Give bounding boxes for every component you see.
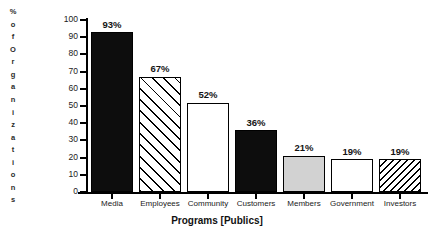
bar-group: 36%: [235, 20, 277, 192]
x-axis-tick: [255, 192, 257, 199]
y-axis-title-char: r: [12, 58, 15, 66]
y-axis-title-char: n: [11, 96, 16, 104]
y-axis-title-char: a: [11, 134, 15, 142]
bar-group: 19%: [379, 20, 421, 192]
y-axis-title-char: a: [11, 83, 15, 91]
y-axis-tick: [80, 191, 88, 193]
bar-customers[interactable]: [235, 130, 277, 192]
y-axis-title-char: f: [12, 33, 15, 41]
x-axis-label-employees: Employees: [140, 200, 180, 208]
y-axis-tick: [80, 19, 88, 21]
y-axis-tick-label: 80: [54, 49, 78, 58]
bar-value-label: 67%: [150, 64, 169, 74]
y-axis-tick: [80, 157, 88, 159]
bar-chart: %ofOrganizations 0102030405060708090100 …: [0, 0, 434, 243]
y-axis-tick-label: 90: [54, 32, 78, 41]
bar-group: 21%: [283, 20, 325, 192]
x-axis-label-customers: Customers: [237, 200, 276, 208]
y-axis-tick-label: 0: [54, 187, 78, 196]
y-axis-tick: [80, 139, 88, 141]
x-axis-tick: [207, 192, 209, 199]
y-axis-tick-label: 10: [54, 170, 78, 179]
y-axis-tick: [80, 88, 88, 90]
bar-community[interactable]: [187, 103, 229, 192]
bar-value-label: 19%: [342, 147, 361, 157]
bar-members[interactable]: [283, 156, 325, 192]
y-axis-tick-label: 70: [54, 67, 78, 76]
x-axis-label-media: Media: [101, 200, 123, 208]
y-axis-title-char: t: [12, 146, 15, 154]
y-axis-title-char: z: [11, 121, 15, 129]
x-axis-tick: [111, 192, 113, 199]
x-axis-tick: [399, 192, 401, 199]
y-axis-title-char: O: [10, 46, 16, 54]
x-axis-label-investors: Investors: [384, 200, 416, 208]
bar-group: 67%: [139, 20, 181, 192]
bar-group: 52%: [187, 20, 229, 192]
bar-government[interactable]: [331, 159, 373, 192]
y-axis-tick: [80, 53, 88, 55]
y-axis-tick-label: 20: [54, 153, 78, 162]
bar-group: 19%: [331, 20, 373, 192]
y-axis-title-char: s: [11, 196, 15, 204]
x-axis-label-government: Government: [330, 200, 374, 208]
y-axis-tick-labels: 0102030405060708090100: [50, 0, 78, 243]
y-axis-tick: [80, 71, 88, 73]
y-axis-tick: [80, 122, 88, 124]
x-axis-tick: [159, 192, 161, 199]
x-axis-tick: [351, 192, 353, 199]
y-axis-title: %ofOrganizations: [2, 8, 24, 204]
y-axis-tick: [80, 36, 88, 38]
y-axis-tick-label: 100: [54, 15, 78, 24]
x-axis-title: Programs [Publics]: [0, 215, 434, 226]
y-axis-tick-label: 40: [54, 118, 78, 127]
y-axis-title-char: n: [11, 184, 16, 192]
bar-value-label: 93%: [102, 20, 121, 30]
y-axis-tick-label: 60: [54, 84, 78, 93]
bar-value-label: 19%: [390, 147, 409, 157]
y-axis-tick: [80, 174, 88, 176]
x-axis-line: [78, 192, 428, 194]
x-axis-label-members: Members: [287, 200, 320, 208]
y-axis-title-char: i: [12, 159, 14, 167]
y-axis-tick-label: 50: [54, 101, 78, 110]
bar-group: 93%: [91, 20, 133, 192]
y-axis-tick-label: 30: [54, 135, 78, 144]
y-axis-title-char: o: [11, 171, 16, 179]
x-axis-label-community: Community: [188, 200, 228, 208]
x-axis-tick: [303, 192, 305, 199]
bar-value-label: 52%: [198, 90, 217, 100]
bar-media[interactable]: [91, 32, 133, 192]
y-axis-title-char: i: [12, 109, 14, 117]
y-axis-tick: [80, 105, 88, 107]
y-axis-title-char: o: [11, 21, 16, 29]
y-axis-title-char: g: [11, 71, 16, 79]
bar-value-label: 21%: [294, 143, 313, 153]
plot-area: 93%67%52%36%21%19%19%: [88, 20, 424, 192]
bar-investors[interactable]: [379, 159, 421, 192]
bar-employees[interactable]: [139, 77, 181, 192]
y-axis-title-char: %: [10, 8, 17, 16]
bar-value-label: 36%: [246, 118, 265, 128]
